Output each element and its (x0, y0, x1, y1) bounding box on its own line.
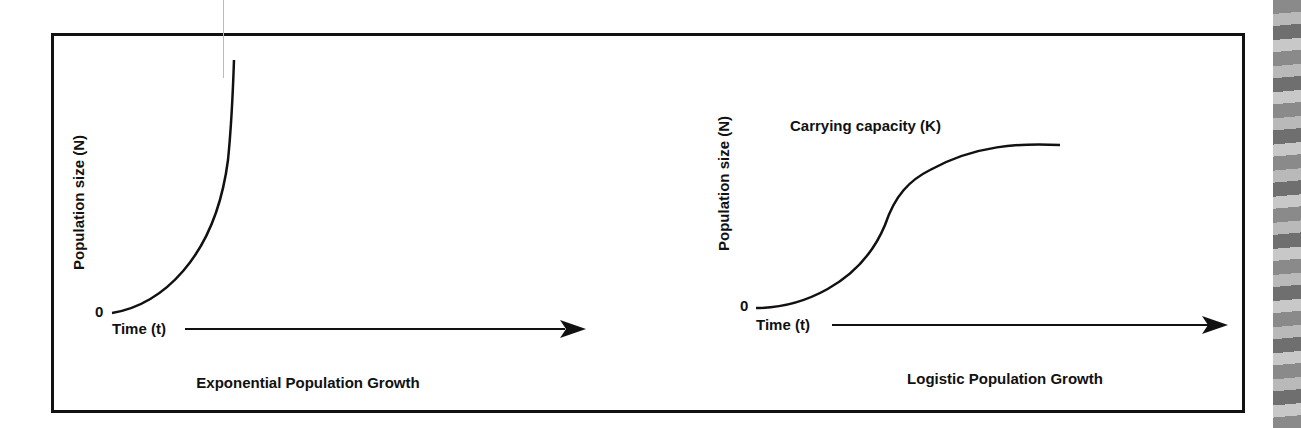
panel-title-right: Logistic Population Growth (907, 370, 1103, 387)
carrying-capacity-label: Carrying capacity (K) (790, 117, 941, 134)
logistic-curve (756, 144, 1060, 308)
origin-label-left: 0 (95, 303, 103, 320)
x-axis-label-right: Time (t) (756, 316, 810, 333)
y-axis-label-left: Population size (N) (70, 135, 87, 270)
origin-label-right: 0 (740, 297, 748, 314)
x-axis-label-left: Time (t) (112, 320, 166, 337)
y-axis-label-right: Population size (N) (715, 116, 732, 251)
panel-title-left: Exponential Population Growth (196, 374, 419, 391)
exponential-curve (112, 60, 234, 313)
plot-canvas (0, 0, 1301, 428)
